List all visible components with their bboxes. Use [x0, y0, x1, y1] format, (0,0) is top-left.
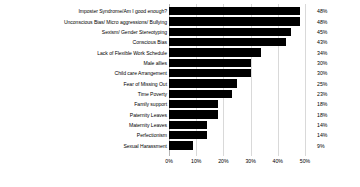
bar-track [169, 47, 305, 57]
category-label: Paternity Leaves [0, 112, 169, 118]
value-label: 48% [305, 19, 360, 25]
bar-track [169, 109, 305, 119]
category-label: Family support [0, 101, 169, 107]
bar [169, 48, 261, 56]
bar [169, 38, 286, 46]
category-label: Male allies [0, 60, 169, 66]
bar [169, 110, 218, 118]
value-label: 48% [305, 8, 360, 14]
category-label: Lack of Flexible Work Schedule [0, 50, 169, 56]
bar-row: Unconscious Bias/ Micro aggressions/ Bul… [0, 16, 360, 26]
x-tick-label: 50% [300, 158, 310, 165]
bar-track [169, 6, 305, 16]
x-tick-label: 10% [191, 158, 201, 165]
bar-track [169, 89, 305, 99]
x-tick-label: 40% [273, 158, 283, 165]
bar [169, 141, 193, 149]
bar-row: Maternity Leaves14% [0, 120, 360, 130]
bar-rows: Imposter Syndrome/Am I good enough?48%Un… [0, 6, 360, 151]
bar-track [169, 58, 305, 68]
bar [169, 79, 237, 87]
bar-row: Perfectionism14% [0, 130, 360, 140]
category-label: Unconscious Bias/ Micro aggressions/ Bul… [0, 19, 169, 25]
category-label: Imposter Syndrome/Am I good enough? [0, 8, 169, 14]
category-label: Sexual Harassment [0, 143, 169, 149]
bar [169, 69, 251, 77]
x-tick-label: 20% [218, 158, 228, 165]
value-label: 14% [305, 132, 360, 138]
bar-row: Imposter Syndrome/Am I good enough?48% [0, 6, 360, 16]
bar [169, 90, 232, 98]
value-label: 18% [305, 101, 360, 107]
value-label: 23% [305, 91, 360, 97]
bar [169, 17, 300, 25]
value-label: 9% [305, 143, 360, 149]
value-label: 30% [305, 60, 360, 66]
bar-track [169, 140, 305, 150]
bar-row: Male allies30% [0, 58, 360, 68]
bar-track [169, 130, 305, 140]
x-tick-label: 30% [245, 158, 255, 165]
bar-row: Lack of Flexible Work Schedule34% [0, 47, 360, 57]
bar-row: Sexism/ Gender Stereotyping45% [0, 27, 360, 37]
category-label: Time Poverty [0, 91, 169, 97]
x-axis: 0%10%20%30%40%50% [169, 158, 305, 172]
bar-row: Sexual Harassment9% [0, 140, 360, 150]
bar-row: Fear of Missing Out25% [0, 78, 360, 88]
value-label: 43% [305, 39, 360, 45]
value-label: 30% [305, 70, 360, 76]
bar-track [169, 68, 305, 78]
x-tick-label: 0% [165, 158, 173, 165]
bar-track [169, 37, 305, 47]
category-label: Child care Arrangement [0, 70, 169, 76]
bar [169, 59, 251, 67]
bar-track [169, 16, 305, 26]
value-label: 25% [305, 81, 360, 87]
bar-row: Conscious Bias43% [0, 37, 360, 47]
value-label: 34% [305, 50, 360, 56]
bar-track [169, 27, 305, 37]
value-label: 14% [305, 122, 360, 128]
bar-track [169, 120, 305, 130]
bar-row: Time Poverty23% [0, 89, 360, 99]
value-label: 18% [305, 112, 360, 118]
bar-row: Child care Arrangement30% [0, 68, 360, 78]
category-label: Conscious Bias [0, 39, 169, 45]
category-label: Sexism/ Gender Stereotyping [0, 29, 169, 35]
value-label: 45% [305, 29, 360, 35]
bar [169, 100, 218, 108]
bar-track [169, 78, 305, 88]
bar [169, 28, 291, 36]
category-label: Fear of Missing Out [0, 81, 169, 87]
bar-track [169, 99, 305, 109]
bar-chart: Imposter Syndrome/Am I good enough?48%Un… [0, 0, 360, 187]
bar [169, 7, 300, 15]
bar [169, 131, 207, 139]
bar-row: Paternity Leaves18% [0, 109, 360, 119]
category-label: Perfectionism [0, 132, 169, 138]
bar [169, 121, 207, 129]
category-label: Maternity Leaves [0, 122, 169, 128]
bar-row: Family support18% [0, 99, 360, 109]
